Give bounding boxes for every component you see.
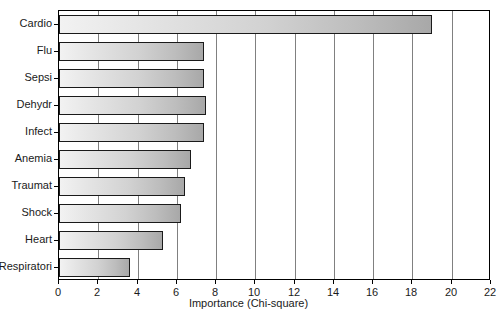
bar-anemia[interactable] <box>59 150 191 169</box>
x-tick-mark-0 <box>58 280 59 284</box>
x-tick-mark-4 <box>137 280 138 284</box>
x-tick-mark-22 <box>490 280 491 284</box>
x-tick-mark-8 <box>215 280 216 284</box>
bar-cardio[interactable] <box>59 15 432 34</box>
bar-row <box>59 258 490 277</box>
y-tick-label-traumat: Traumat <box>11 180 52 191</box>
y-tick-mark <box>54 132 58 133</box>
x-tick-mark-16 <box>372 280 373 284</box>
chart-figure: CardioFluSepsiDehydrInfectAnemiaTraumatS… <box>0 0 497 314</box>
y-tick-mark <box>54 213 58 214</box>
y-tick-label-anemia: Anemia <box>15 153 52 164</box>
y-tick-mark <box>54 24 58 25</box>
bar-infect[interactable] <box>59 123 204 142</box>
bar-shock[interactable] <box>59 204 181 223</box>
bar-row <box>59 123 490 142</box>
bar-row <box>59 69 490 88</box>
y-tick-mark <box>54 51 58 52</box>
y-tick-label-respiratori: Respiratori <box>0 261 52 272</box>
x-tick-mark-2 <box>97 280 98 284</box>
y-tick-mark <box>54 240 58 241</box>
x-tick-mark-6 <box>176 280 177 284</box>
bar-row <box>59 42 490 61</box>
y-tick-label-cardio: Cardio <box>20 18 52 29</box>
y-tick-mark <box>54 159 58 160</box>
x-tick-mark-20 <box>451 280 452 284</box>
bar-heart[interactable] <box>59 231 163 250</box>
y-tick-label-dehydr: Dehydr <box>17 99 52 110</box>
x-tick-mark-14 <box>333 280 334 284</box>
plot-area <box>58 10 490 280</box>
x-tick-mark-18 <box>411 280 412 284</box>
bar-respiratori[interactable] <box>59 258 130 277</box>
y-tick-label-flu: Flu <box>37 45 52 56</box>
y-tick-label-heart: Heart <box>25 234 52 245</box>
y-tick-label-shock: Shock <box>21 207 52 218</box>
bar-dehydr[interactable] <box>59 96 206 115</box>
x-tick-mark-12 <box>294 280 295 284</box>
y-tick-mark <box>54 105 58 106</box>
bar-sepsi[interactable] <box>59 69 204 88</box>
bar-row <box>59 204 490 223</box>
y-tick-mark <box>54 267 58 268</box>
bar-row <box>59 177 490 196</box>
x-axis-title: Importance (Chi-square) <box>0 297 497 310</box>
bar-row <box>59 15 490 34</box>
bar-row <box>59 150 490 169</box>
bar-row <box>59 231 490 250</box>
y-tick-mark <box>54 186 58 187</box>
y-tick-label-sepsi: Sepsi <box>24 72 52 83</box>
x-tick-mark-10 <box>254 280 255 284</box>
chart-title <box>0 0 497 3</box>
y-tick-label-infect: Infect <box>25 126 52 137</box>
bar-flu[interactable] <box>59 42 204 61</box>
y-tick-mark <box>54 78 58 79</box>
bar-row <box>59 96 490 115</box>
bar-traumat[interactable] <box>59 177 185 196</box>
